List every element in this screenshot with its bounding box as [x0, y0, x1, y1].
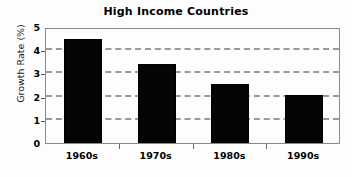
y-axis-label: Growth Rate (%): [15, 4, 26, 124]
x-tick-label-1960s: 1960s: [47, 150, 117, 161]
x-tick-label-1970s: 1970s: [121, 150, 191, 161]
y-tick-label-1: 1: [26, 116, 40, 126]
bar-1960s[interactable]: [64, 39, 102, 143]
y-tick-label-0: 0: [26, 139, 40, 149]
y-tick-label-3: 3: [26, 69, 40, 79]
x-tick-label-1990s: 1990s: [268, 150, 338, 161]
x-tick-mark: [266, 144, 267, 149]
plot-area: [45, 28, 340, 144]
y-tick-label-4: 4: [26, 46, 40, 56]
x-tick-mark: [193, 144, 194, 149]
plot-inner: [46, 29, 339, 143]
bar-1980s[interactable]: [211, 84, 249, 143]
y-tick-label-5: 5: [26, 23, 40, 33]
y-tick-label-2: 2: [26, 93, 40, 103]
bar-1990s[interactable]: [285, 95, 323, 143]
chart-title: High Income Countries: [0, 5, 352, 18]
chart-screenshot: High Income Countries Growth Rate (%) 54…: [0, 0, 352, 177]
x-tick-label-1980s: 1980s: [194, 150, 264, 161]
x-tick-mark: [119, 144, 120, 149]
bar-1970s[interactable]: [138, 64, 176, 143]
